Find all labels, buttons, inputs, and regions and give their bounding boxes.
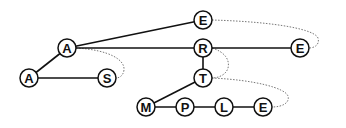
node-label: S [103,71,112,86]
node-label: L [220,100,228,115]
dotted-links [76,20,318,107]
node-label: E [296,41,305,56]
tree-edges [29,20,300,107]
tree-node: L [215,98,233,116]
tree-node: R [194,39,212,57]
tree-node: A [58,39,76,57]
tree-node: A [20,69,38,87]
ternary-search-tree-diagram: AASERETMPLE [0,0,346,128]
dotted-link [212,48,228,78]
node-label: T [199,71,207,86]
node-label: E [259,100,268,115]
node-label: A [24,71,34,86]
tree-nodes: AASERETMPLE [20,11,309,116]
tree-node: S [98,69,116,87]
tree-node: T [194,69,212,87]
node-label: A [62,41,72,56]
tree-node: P [176,98,194,116]
node-label: R [198,41,208,56]
tree-node: M [137,98,155,116]
tree-node: E [194,11,212,29]
node-label: M [141,100,152,115]
node-label: P [181,100,190,115]
tree-node: E [254,98,272,116]
tree-edge [67,20,203,48]
tree-node: E [291,39,309,57]
node-label: E [199,13,208,28]
